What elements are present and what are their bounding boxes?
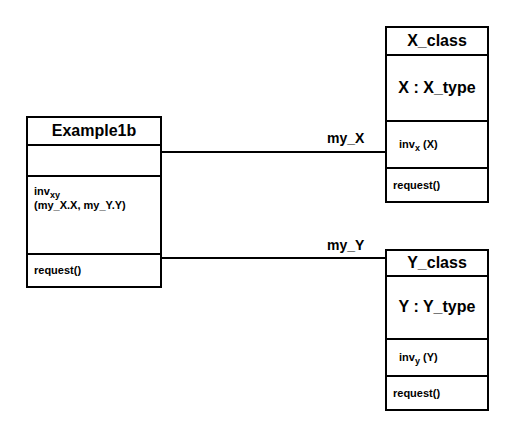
operation-example1b: request() bbox=[34, 265, 81, 276]
attribute-y-class: Y : Y_type bbox=[399, 299, 476, 315]
attribute-x-class: X : X_type bbox=[398, 80, 475, 96]
operation-x-class: request() bbox=[393, 180, 440, 191]
class-name-compartment-example1b: Example1b bbox=[28, 118, 160, 144]
invariant-compartment-example1b: invxy (my_X.X, my_Y.Y) bbox=[28, 175, 160, 253]
invariant-subscript-x-class: x bbox=[415, 143, 420, 153]
association-line-my-x[interactable] bbox=[160, 151, 385, 153]
invariant-name-y-class: inv bbox=[399, 351, 415, 363]
class-name-compartment-x-class: X_class bbox=[387, 28, 487, 54]
operation-compartment-y-class: request() bbox=[387, 375, 487, 409]
invariant-args-y-class: (Y) bbox=[420, 351, 438, 363]
attribute-compartment-example1b bbox=[28, 144, 160, 175]
invariant-subscript-y-class: y bbox=[415, 356, 420, 366]
association-line-my-y[interactable] bbox=[160, 257, 385, 259]
invariant-example1b: invxy (my_X.X, my_Y.Y) bbox=[34, 185, 126, 213]
class-box-y-class[interactable]: Y_class Y : Y_type invy (Y) request() bbox=[385, 249, 489, 411]
invariant-name-x-class: inv bbox=[399, 138, 415, 150]
operation-y-class: request() bbox=[393, 388, 440, 399]
invariant-args-example1b: (my_X.X, my_Y.Y) bbox=[34, 199, 126, 213]
attribute-compartment-y-class: Y : Y_type bbox=[387, 275, 487, 338]
invariant-compartment-y-class: invy (Y) bbox=[387, 338, 487, 376]
class-box-x-class[interactable]: X_class X : X_type invx (X) request() bbox=[385, 26, 489, 203]
class-box-example1b[interactable]: Example1b invxy (my_X.X, my_Y.Y) request… bbox=[26, 116, 162, 288]
invariant-x-class: invx (X) bbox=[399, 138, 438, 152]
invariant-subscript-example1b: xy bbox=[50, 190, 60, 200]
attribute-compartment-x-class: X : X_type bbox=[387, 54, 487, 120]
operation-compartment-x-class: request() bbox=[387, 167, 487, 201]
invariant-compartment-x-class: invx (X) bbox=[387, 120, 487, 167]
class-name-y-class: Y_class bbox=[407, 255, 467, 271]
uml-class-diagram-canvas: my_X my_Y Example1b invxy (my_X.X, my_Y.… bbox=[0, 0, 527, 427]
invariant-y-class: invy (Y) bbox=[399, 351, 438, 365]
invariant-args-x-class: (X) bbox=[420, 138, 438, 150]
operation-compartment-example1b: request() bbox=[28, 253, 160, 286]
association-label-my-x: my_X bbox=[327, 131, 364, 145]
invariant-name-example1b: inv bbox=[34, 185, 50, 197]
class-name-x-class: X_class bbox=[407, 33, 467, 49]
class-name-compartment-y-class: Y_class bbox=[387, 251, 487, 275]
association-label-my-y: my_Y bbox=[327, 238, 364, 252]
class-name-example1b: Example1b bbox=[52, 123, 136, 139]
